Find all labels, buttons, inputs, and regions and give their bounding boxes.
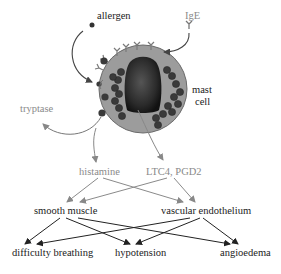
allergen-label: allergen [97, 10, 131, 21]
arrow-cell-to-tryptase [43, 117, 101, 134]
anaphylaxis-diagram: allergen IgE mast cell tryptase histamin… [0, 0, 281, 274]
ltc4-pgd2-label: LTC4, PGD2 [146, 166, 202, 177]
arrow-cell-to-histamine [94, 128, 96, 162]
tryptase-label: tryptase [20, 103, 54, 114]
arrow-ige-to-cell [164, 33, 189, 52]
mast-cell-label-line2: cell [195, 96, 210, 107]
ige-antibody-icon [186, 21, 192, 29]
arrow-smooth-muscle-to-breathing [25, 218, 60, 244]
difficulty-breathing-label: difficulty breathing [12, 247, 94, 258]
arrow-allergen-to-cell [72, 31, 92, 82]
arrow-ltc4-to-vascular [174, 178, 195, 202]
hypotension-label: hypotension [115, 247, 167, 258]
arrow-histamine-to-vascular [103, 178, 183, 202]
arrow-smooth-muscle-to-angioedema [78, 218, 230, 244]
histamine-label: histamine [79, 166, 120, 177]
allergen-particle [90, 23, 95, 28]
mast-cell-label-line1: mast [192, 84, 212, 95]
smooth-muscle-label: smooth muscle [34, 205, 98, 216]
mast-cell [99, 45, 187, 133]
angioedema-label: angioedema [220, 247, 271, 258]
vascular-endothelium-label: vascular endothelium [161, 205, 251, 216]
ige-label: IgE [185, 10, 200, 21]
nucleus [125, 57, 162, 113]
